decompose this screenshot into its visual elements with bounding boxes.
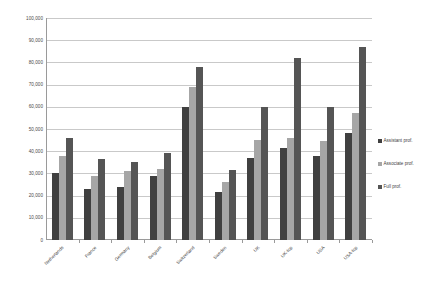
x-axis-category-label-text: Germany [113, 245, 130, 262]
x-axis-category-label: Switzerland [175, 245, 195, 265]
bar [124, 171, 131, 240]
bar [131, 162, 138, 240]
y-axis-tick-label: 60,000 [3, 104, 43, 109]
x-axis-tick [209, 240, 210, 243]
bar [150, 176, 157, 240]
x-axis-category-label: USA-top [342, 245, 358, 261]
bar-group [280, 18, 301, 240]
y-axis-tick-label: 80,000 [3, 60, 43, 65]
legend-item[interactable]: Full prof. [378, 184, 444, 189]
y-axis-tick-label: 30,000 [3, 171, 43, 176]
bar [117, 187, 124, 240]
bar [229, 170, 236, 240]
x-axis-category-label: Belgium [147, 245, 162, 260]
y-axis-tick-label: 20,000 [3, 193, 43, 198]
x-axis-tick [274, 240, 275, 243]
bar [196, 67, 203, 240]
bar [189, 87, 196, 240]
bar-group [345, 18, 366, 240]
bar-chart: 100,00090,00080,00070,00060,00050,00040,… [0, 0, 445, 295]
bar-group [117, 18, 138, 240]
x-axis-category-label-text: UK [252, 245, 260, 253]
chart-legend: Assistant prof.Associate prof.Full prof. [378, 138, 444, 207]
bar [345, 133, 352, 240]
x-axis-category-label: France [84, 245, 98, 259]
bars-layer [46, 18, 372, 240]
x-axis-category-label: USA [315, 245, 325, 255]
bar [352, 113, 359, 240]
bar [247, 158, 254, 240]
y-axis-tick-label: 10,000 [3, 215, 43, 220]
legend-item-label: Associate prof. [384, 161, 414, 166]
x-axis-tick [339, 240, 340, 243]
y-axis-tick-label: 90,000 [3, 38, 43, 43]
y-axis: 100,00090,00080,00070,00060,00050,00040,… [0, 18, 43, 240]
x-axis-category-label-text: Belgium [147, 245, 162, 260]
x-axis-category-label: Germany [113, 245, 130, 262]
x-axis-category-label-text: Netherlands [44, 245, 65, 266]
x-axis-category-label: Sweden [213, 245, 228, 260]
x-axis-tick [307, 240, 308, 243]
bar-group [215, 18, 236, 240]
x-axis-tick [176, 240, 177, 243]
bar-group [247, 18, 268, 240]
y-axis-tick-label: 40,000 [3, 149, 43, 154]
bar-group [313, 18, 334, 240]
legend-item[interactable]: Associate prof. [378, 161, 444, 166]
bar [182, 107, 189, 240]
bar [261, 107, 268, 240]
bar [222, 182, 229, 240]
x-axis-category-label-text: USA [315, 245, 325, 255]
bar [215, 192, 222, 240]
x-axis-tick [79, 240, 80, 243]
x-axis-tick [372, 240, 373, 243]
y-axis-tick-label: 0 [3, 238, 43, 243]
bar-group [150, 18, 171, 240]
y-axis-tick-label: 100,000 [3, 16, 43, 21]
x-axis-category-label-text: Switzerland [175, 245, 195, 265]
x-axis-tick [111, 240, 112, 243]
y-axis-tick-label: 70,000 [3, 82, 43, 87]
bar [280, 148, 287, 240]
bar-group [52, 18, 73, 240]
bar [359, 47, 366, 240]
legend-swatch-icon [378, 162, 382, 166]
legend-item[interactable]: Assistant prof. [378, 138, 444, 143]
bar-group [182, 18, 203, 240]
x-axis-category-label-text: UK-top [279, 245, 293, 259]
bar [52, 173, 59, 240]
bar [320, 141, 327, 240]
x-axis-category-label: UK [252, 245, 260, 253]
bar [59, 156, 66, 240]
x-axis-category-label-text: France [84, 245, 98, 259]
bar [98, 159, 105, 240]
bar [91, 176, 98, 240]
bar [287, 138, 294, 240]
bar [294, 58, 301, 240]
legend-swatch-icon [378, 185, 382, 189]
legend-swatch-icon [378, 139, 382, 143]
x-axis-category-label-text: Sweden [213, 245, 228, 260]
x-axis-tick [242, 240, 243, 243]
bar [84, 189, 91, 240]
bar [157, 169, 164, 240]
bar [254, 140, 261, 240]
bar [66, 138, 73, 240]
x-axis-category-label: UK-top [279, 245, 293, 259]
bar-group [84, 18, 105, 240]
legend-item-label: Full prof. [384, 184, 402, 189]
legend-item-label: Assistant prof. [384, 138, 413, 143]
x-axis-category-label-text: USA-top [342, 245, 358, 261]
y-axis-tick-label: 50,000 [3, 127, 43, 132]
bar [313, 156, 320, 240]
bar [164, 153, 171, 240]
bar [327, 107, 334, 240]
x-axis-tick [144, 240, 145, 243]
x-axis-category-label: Netherlands [44, 245, 65, 266]
